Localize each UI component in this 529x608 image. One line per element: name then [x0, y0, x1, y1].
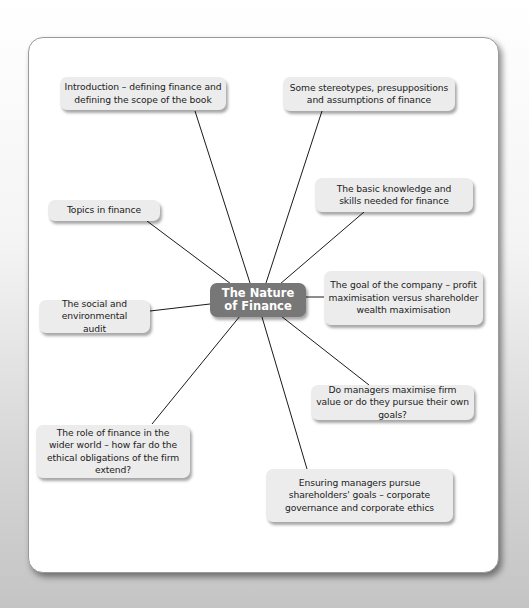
branch-node-role-wider-world: The role of finance in the wider world –… [36, 425, 190, 478]
branch-label: The social and environmental audit [49, 298, 140, 336]
branch-label: Topics in finance [67, 204, 141, 217]
link-stereotypes [266, 111, 322, 283]
central-topic-label: The Nature of Finance [222, 287, 294, 313]
link-role-wider-world [152, 316, 240, 424]
link-governance [262, 317, 307, 469]
branch-label: Ensuring managers pursue shareholders' g… [272, 477, 447, 515]
branch-label: Do managers maximise firm value or do th… [315, 384, 470, 422]
branch-label: The role of finance in the wider world –… [44, 427, 182, 477]
central-topic-node: The Nature of Finance [210, 283, 306, 317]
branch-node-managers-value: Do managers maximise firm value or do th… [311, 385, 474, 420]
branch-label: The goal of the company – profit maximis… [328, 279, 479, 317]
branch-label: The basic knowledge and skills needed fo… [333, 183, 455, 208]
branch-node-goal: The goal of the company – profit maximis… [324, 271, 483, 325]
branch-label: Some stereotypes, presuppositions and as… [287, 82, 451, 107]
branch-node-basic-knowledge: The basic knowledge and skills needed fo… [315, 178, 473, 212]
link-topics [147, 221, 231, 284]
branch-node-social-audit: The social and environmental audit [39, 300, 150, 333]
branch-node-topics: Topics in finance [48, 200, 160, 221]
link-social-audit [150, 304, 210, 311]
link-intro [195, 111, 250, 283]
branch-node-intro: Introduction – defining finance and defi… [60, 77, 226, 110]
branch-node-stereotypes: Some stereotypes, presuppositions and as… [283, 77, 455, 111]
branch-node-governance: Ensuring managers pursue shareholders' g… [266, 469, 453, 522]
branch-label: Introduction – defining finance and defi… [64, 81, 222, 106]
link-managers-value [281, 316, 369, 385]
